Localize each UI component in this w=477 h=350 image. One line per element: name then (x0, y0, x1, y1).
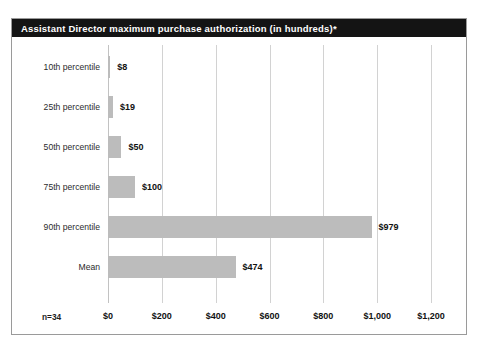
bar (108, 96, 113, 118)
bar-row: 25th percentile$19 (12, 87, 466, 127)
x-tick-label: $0 (103, 311, 113, 321)
bar-value-label: $474 (243, 262, 263, 272)
bar-value-label: $50 (128, 142, 143, 152)
category-label: Mean (12, 262, 100, 272)
x-tick-label: $200 (152, 311, 172, 321)
bar (108, 216, 372, 238)
category-label: 10th percentile (12, 62, 100, 72)
x-tick-label: $600 (259, 311, 279, 321)
category-label: 75th percentile (12, 182, 100, 192)
bar-value-label: $100 (142, 182, 162, 192)
x-tick-label: $800 (313, 311, 333, 321)
bar (108, 56, 110, 78)
bar-row: 75th percentile$100 (12, 167, 466, 207)
x-axis: n=34 $0$200$400$600$800$1,000$1,200 (12, 305, 466, 327)
bar-row: 10th percentile$8 (12, 47, 466, 87)
plot-area: 10th percentile$825th percentile$1950th … (12, 37, 466, 334)
bar-row: 50th percentile$50 (12, 127, 466, 167)
category-label: 25th percentile (12, 102, 100, 112)
bar (108, 176, 135, 198)
bar-row: Mean$474 (12, 247, 466, 287)
bar-value-label: $979 (379, 222, 399, 232)
chart-title-bar: Assistant Director maximum purchase auth… (12, 19, 466, 37)
x-tick-label: $400 (206, 311, 226, 321)
chart-figure: Assistant Director maximum purchase auth… (11, 18, 467, 335)
x-tick-label: $1,000 (363, 311, 391, 321)
bar-row: 90th percentile$979 (12, 207, 466, 247)
bar (108, 136, 121, 158)
bar (108, 256, 236, 278)
x-tick-label: $1,200 (417, 311, 445, 321)
bar-value-label: $8 (117, 62, 127, 72)
sample-size-label: n=34 (42, 312, 61, 322)
category-label: 50th percentile (12, 142, 100, 152)
category-label: 90th percentile (12, 222, 100, 232)
chart-title: Assistant Director maximum purchase auth… (21, 23, 337, 34)
bar-value-label: $19 (120, 102, 135, 112)
